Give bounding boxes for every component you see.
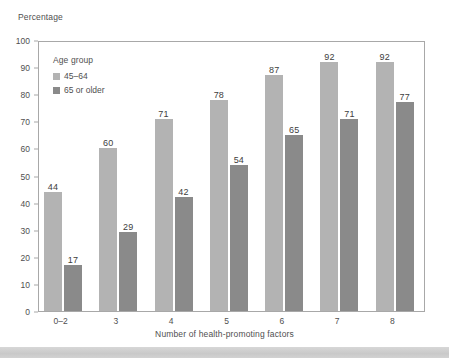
bar-value-label: 77 — [399, 92, 409, 102]
y-tick-label: 100 — [16, 36, 30, 46]
legend-item-young: 45–64 — [53, 70, 105, 83]
bar-group: 7854 — [205, 42, 260, 311]
bar-65-older[interactable] — [64, 265, 82, 311]
x-tick-label: 4 — [169, 316, 174, 326]
bar-45-64[interactable] — [99, 148, 117, 311]
bar-value-label: 65 — [289, 125, 299, 135]
legend-label-old: 65 or older — [64, 84, 105, 97]
y-tick-label: 0 — [25, 307, 30, 317]
bar-group: 9271 — [315, 42, 370, 311]
bar-group: 8765 — [260, 42, 315, 311]
y-axis-title: Percentage — [18, 12, 63, 22]
bar-45-64[interactable] — [320, 62, 338, 311]
x-tick-label: 8 — [390, 316, 395, 326]
x-tick-label: 7 — [335, 316, 340, 326]
y-tick-label: 70 — [21, 117, 30, 127]
y-tick-label: 80 — [21, 90, 30, 100]
x-axis-ticks: 0–2345678 — [38, 313, 425, 329]
bar-value-label: 54 — [234, 155, 244, 165]
legend-swatch-icon-old — [53, 87, 60, 94]
bar-value-label: 60 — [103, 138, 113, 148]
bar-65-older[interactable] — [119, 232, 137, 311]
chart-figure: Percentage 0102030405060708090100 441760… — [0, 0, 449, 358]
bar-value-label: 44 — [48, 182, 58, 192]
bar-65-older[interactable] — [175, 197, 193, 311]
x-axis-title: Number of health-promoting factors — [0, 329, 449, 339]
bar-45-64[interactable] — [44, 192, 62, 311]
bar-value-label: 71 — [344, 109, 354, 119]
bar-65-older[interactable] — [230, 165, 248, 311]
bar-value-label: 29 — [123, 222, 133, 232]
bar-65-older[interactable] — [396, 102, 414, 311]
x-tick-label: 5 — [224, 316, 229, 326]
legend-title: Age group — [53, 54, 105, 67]
y-tick-label: 50 — [21, 172, 30, 182]
bar-value-label: 78 — [214, 90, 224, 100]
y-tick-label: 30 — [21, 226, 30, 236]
bar-value-label: 17 — [68, 255, 78, 265]
bar-65-older[interactable] — [340, 119, 358, 311]
x-tick-label: 3 — [114, 316, 119, 326]
bar-group: 7142 — [150, 42, 205, 311]
y-tick-label: 90 — [21, 63, 30, 73]
y-tick-label: 10 — [21, 280, 30, 290]
y-tick-label: 40 — [21, 199, 30, 209]
x-tick-label: 6 — [279, 316, 284, 326]
y-axis-ticks: 0102030405060708090100 — [0, 41, 34, 312]
bar-45-64[interactable] — [376, 62, 394, 311]
legend: Age group 45–64 65 or older — [53, 54, 105, 98]
legend-swatch-icon-young — [53, 73, 60, 80]
bar-group: 9277 — [371, 42, 426, 311]
bar-45-64[interactable] — [265, 75, 283, 311]
bar-value-label: 71 — [158, 109, 168, 119]
bar-65-older[interactable] — [285, 135, 303, 311]
y-tick-label: 60 — [21, 144, 30, 154]
legend-item-old: 65 or older — [53, 84, 105, 97]
bar-value-label: 92 — [379, 52, 389, 62]
bar-45-64[interactable] — [155, 119, 173, 311]
legend-label-young: 45–64 — [64, 70, 88, 83]
bottom-banner — [0, 347, 449, 358]
x-tick-label: 0–2 — [54, 316, 68, 326]
plot-area: 4417602971427854876592719277 Age group 4… — [38, 41, 425, 312]
y-tick-label: 20 — [21, 253, 30, 263]
bar-value-label: 87 — [269, 65, 279, 75]
bar-45-64[interactable] — [210, 100, 228, 311]
bar-value-label: 42 — [178, 187, 188, 197]
bar-value-label: 92 — [324, 52, 334, 62]
